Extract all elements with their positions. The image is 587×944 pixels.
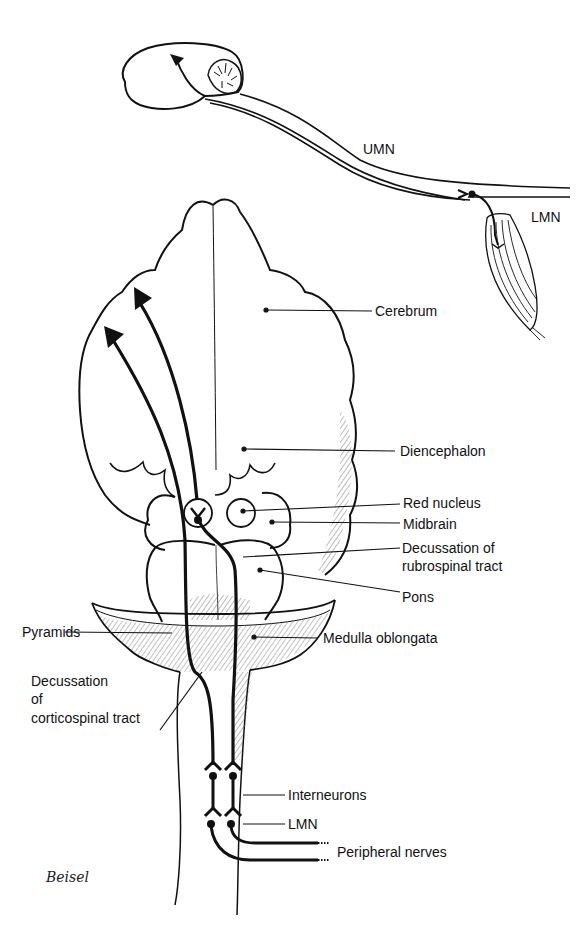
rubrospinal-cell-body-icon — [194, 516, 202, 524]
interneuron-cell-body-icon — [229, 772, 237, 780]
label-lmn-inset: LMN — [531, 209, 561, 226]
cerebrum-outline — [79, 200, 357, 575]
medulla-shading — [98, 612, 330, 672]
label-decussation-corticospinal-3: corticospinal tract — [31, 710, 140, 727]
label-diencephalon: Diencephalon — [400, 443, 486, 460]
inset-arrow-head-icon — [170, 54, 184, 66]
peripheral-nerves-dashed — [318, 843, 330, 860]
lmn-axon — [472, 194, 498, 245]
corticospinal-tract — [113, 303, 213, 765]
label-cerebrum: Cerebrum — [375, 303, 437, 320]
label-decussation-rubrospinal-2: rubrospinal tract — [402, 558, 502, 575]
label-lmn: LMN — [288, 816, 318, 833]
label-midbrain: Midbrain — [403, 516, 457, 533]
interneuron-chain — [205, 762, 241, 816]
label-pons: Pons — [402, 589, 434, 606]
corticospinal-arrow-head-icon — [104, 326, 124, 348]
inset-lateral-brain — [123, 43, 243, 109]
label-decussation-corticospinal-2: of — [31, 691, 43, 708]
label-decussation-corticospinal-1: Decussation — [31, 673, 108, 690]
umn-synapse-icon — [458, 190, 467, 198]
label-peripheral-nerves: Peripheral nerves — [337, 844, 447, 861]
cerebrum-shading — [318, 410, 352, 575]
label-pyramids: Pyramids — [22, 624, 80, 641]
label-umn: UMN — [363, 141, 395, 158]
label-interneurons: Interneurons — [288, 787, 367, 804]
artist-signature: Beisel — [46, 869, 89, 885]
label-decussation-rubrospinal-1: Decussation of — [402, 540, 495, 557]
label-medulla-oblongata: Medulla oblongata — [323, 630, 437, 647]
label-red-nucleus: Red nucleus — [403, 495, 481, 512]
interneuron-cell-body-icon — [209, 772, 217, 780]
rubrospinal-synapse-icon — [191, 508, 205, 517]
red-nucleus-right — [227, 499, 255, 527]
pons-shading — [190, 594, 250, 620]
